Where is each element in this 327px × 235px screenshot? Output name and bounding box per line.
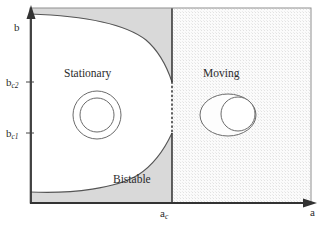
phase-diagram-canvas: [0, 0, 327, 235]
region-label-bistable: Bistable: [113, 174, 151, 186]
x-axis-label: a: [310, 207, 315, 218]
plot-area: [30, 8, 311, 203]
y-tick-label-bc1-sub: c1: [12, 132, 19, 141]
region-label-stationary: Stationary: [64, 68, 111, 80]
y-tick-label-bc2-main: b: [6, 76, 12, 88]
y-tick-label-bc1: bc1: [6, 128, 19, 139]
y-axis-label: b: [14, 22, 20, 33]
phase-diagram-figure: b bc2 bc1 ac a Stationary Moving Bistabl…: [0, 0, 327, 235]
x-tick-label-ac-sub: c: [165, 212, 168, 221]
region-label-moving: Moving: [203, 68, 239, 80]
y-tick-label-bc2-sub: c2: [12, 81, 19, 90]
moving-glyph: [200, 94, 256, 136]
y-tick-label-bc2: bc2: [6, 77, 19, 88]
y-tick-label-bc1-main: b: [6, 127, 12, 139]
x-tick-label-ac: ac: [160, 208, 168, 219]
